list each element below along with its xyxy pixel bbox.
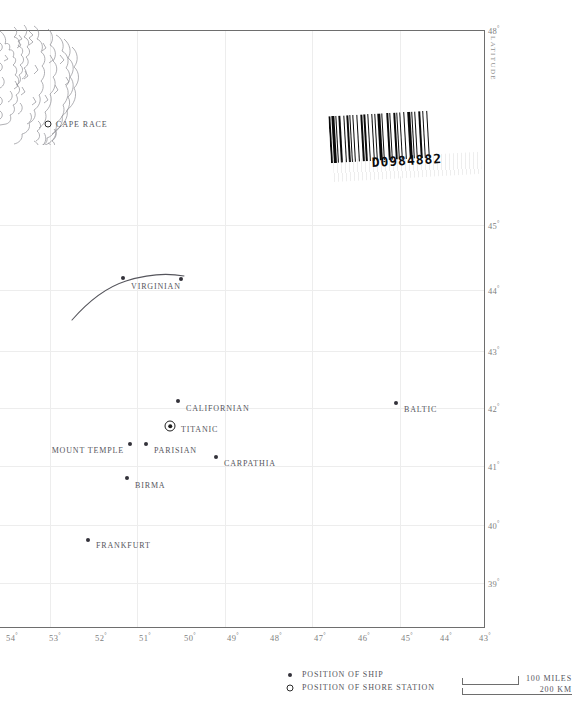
lon-tick-44: 44° <box>440 632 452 643</box>
label-titanic: TITANIC <box>181 425 218 434</box>
marker-titanic <box>165 421 176 432</box>
label-virginian: VIRGINIAN <box>131 282 181 291</box>
map-legend: POSITION OF SHIP POSITION OF SHORE STATI… <box>290 668 470 694</box>
legend-label-ship: POSITION OF SHIP <box>302 668 384 681</box>
label-cape-race: CAPE RACE <box>56 120 107 129</box>
latitude-axis-title: LATITUDE <box>489 36 497 81</box>
scale-tick-miles-start <box>462 678 463 685</box>
scale-label-miles: 100 MILES <box>526 674 572 683</box>
archival-barcode-sticker: D0984882 <box>328 108 483 180</box>
legend-item-shore-station: POSITION OF SHORE STATION <box>290 681 470 694</box>
lat-tick-40: 40° <box>488 520 500 531</box>
marker-birma <box>125 476 129 480</box>
marker-mount-temple <box>128 442 132 446</box>
label-baltic: BALTIC <box>404 405 437 414</box>
scale-label-km: 200 KM <box>540 685 572 694</box>
ship-marker-icon <box>288 673 292 677</box>
lon-tick-50: 50° <box>184 632 196 643</box>
marker-parisian <box>144 442 148 446</box>
legend-label-shore-station: POSITION OF SHORE STATION <box>302 681 435 694</box>
lon-tick-47: 47° <box>314 632 326 643</box>
marker-carpathia <box>214 455 218 459</box>
label-birma: BIRMA <box>135 481 165 490</box>
lon-tick-43: 43° <box>479 632 491 643</box>
lat-tick-44: 44° <box>488 285 500 296</box>
marker-virginian-waypoint <box>121 276 125 280</box>
lat-tick-48: 48° <box>488 25 500 36</box>
map-scale-bar: 100 MILES 200 KM <box>462 672 572 702</box>
shore-station-marker-icon <box>287 684 294 691</box>
lon-tick-53: 53° <box>49 632 61 643</box>
label-carpathia: CARPATHIA <box>224 459 276 468</box>
lat-tick-45: 45° <box>488 220 500 231</box>
marker-californian <box>176 399 180 403</box>
scale-tick-miles-end <box>518 676 519 685</box>
scale-line-km <box>462 694 572 695</box>
marker-baltic <box>394 401 398 405</box>
label-californian: CALIFORNIAN <box>186 404 250 413</box>
lon-tick-45: 45° <box>401 632 413 643</box>
lon-tick-52: 52° <box>95 632 107 643</box>
legend-item-ship: POSITION OF SHIP <box>290 668 470 681</box>
lat-tick-39: 39° <box>488 578 500 589</box>
lon-tick-54: 54° <box>6 632 18 643</box>
titanic-position-map: CAPE RACEVIRGINIANCALIFORNIANTITANICBALT… <box>0 0 577 717</box>
lon-tick-48: 48° <box>270 632 282 643</box>
label-mount-temple: MOUNT TEMPLE <box>52 446 124 455</box>
lon-tick-46: 46° <box>358 632 370 643</box>
lon-tick-51: 51° <box>139 632 151 643</box>
scale-line-miles <box>462 684 518 685</box>
marker-virginian <box>179 277 183 281</box>
label-parisian: PARISIAN <box>154 446 197 455</box>
lon-tick-49: 49° <box>227 632 239 643</box>
marker-cape-race <box>45 121 52 128</box>
lat-tick-43: 43° <box>488 346 500 357</box>
lat-tick-42: 42° <box>488 403 500 414</box>
lat-tick-41: 41° <box>488 461 500 472</box>
scale-tick-km-start <box>462 688 463 695</box>
label-frankfurt: FRANKFURT <box>96 541 151 550</box>
marker-frankfurt <box>86 538 90 542</box>
